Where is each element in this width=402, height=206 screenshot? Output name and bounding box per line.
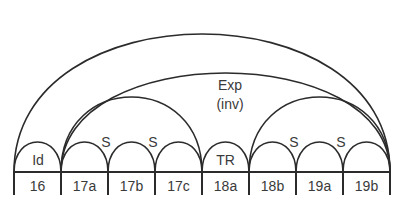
cell-label-16: 16 bbox=[30, 178, 46, 194]
cell-label-18a: 18a bbox=[214, 178, 238, 194]
cell-label-19b: 19b bbox=[355, 178, 379, 194]
arc-label-s1: S bbox=[101, 134, 110, 150]
arc-label-id: Id bbox=[32, 152, 44, 168]
cell-label-19a: 19a bbox=[308, 178, 332, 194]
arc-label-tr: TR bbox=[216, 152, 235, 168]
outer-arc bbox=[14, 34, 390, 172]
cell-label-17a: 17a bbox=[73, 178, 97, 194]
group-17-arc bbox=[61, 97, 202, 172]
cell-label-18b: 18b bbox=[261, 178, 285, 194]
cell-arc-17c bbox=[155, 142, 202, 172]
cell-label-17c: 17c bbox=[167, 178, 190, 194]
arc-label-s2: S bbox=[148, 134, 157, 150]
cell-arc-19b bbox=[343, 142, 390, 172]
group-18b-19-arc bbox=[249, 97, 390, 172]
arc-label-exp: Exp bbox=[218, 77, 242, 93]
arc-label-s3: S bbox=[289, 134, 298, 150]
arc-label-s4: S bbox=[336, 134, 345, 150]
arc-diagram: 16 17a 17b 17c 18a 18b 19a 19b Id S S TR… bbox=[0, 0, 402, 206]
cell-label-17b: 17b bbox=[120, 178, 144, 194]
arc-label-inv: (inv) bbox=[216, 96, 243, 112]
